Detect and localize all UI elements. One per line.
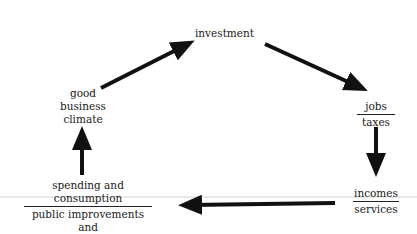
taxes-label: taxes xyxy=(357,114,395,129)
climate-line-2: business xyxy=(58,100,108,113)
arrow-investment-to-jobs xyxy=(265,44,357,86)
investment-label: investment xyxy=(195,27,254,39)
climate-line-1: good xyxy=(58,87,108,100)
node-investment: investment xyxy=(195,27,254,40)
jobs-label: jobs xyxy=(357,100,395,114)
spending-line-2: consumption xyxy=(24,192,152,205)
node-good-business-climate: good business climate xyxy=(58,87,108,126)
arrow-climate-to-investment xyxy=(101,46,184,88)
arrow-incomes-to-spending xyxy=(190,203,335,205)
climate-line-3: climate xyxy=(58,113,108,126)
node-incomes-services: incomes services xyxy=(353,187,399,216)
node-spending-public: spending and consumption public improvem… xyxy=(24,179,152,234)
spending-line-1: spending and xyxy=(24,179,152,192)
incomes-label: incomes xyxy=(353,187,399,201)
public-line-1: public improvements and xyxy=(24,208,152,234)
services-label: services xyxy=(353,201,399,216)
node-jobs-taxes: jobs taxes xyxy=(357,100,395,129)
